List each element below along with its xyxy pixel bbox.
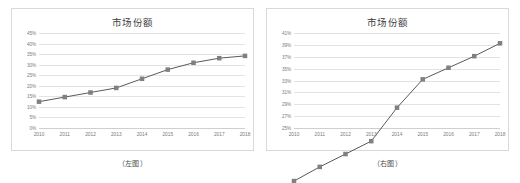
figure-right: 市场份额 41%39%37%35%33%31%29%27%25% 2010201… [265,8,510,168]
x-axis-tick-label: 2018 [495,132,506,137]
plot-area-left: 45%40%35%30%25%20%15%10%5%0% 20102011201… [39,33,245,128]
x-axis-tick-label: 2018 [240,132,251,137]
chart-title-right: 市场份额 [267,15,508,29]
x-axis-tick-label: 2011 [315,132,325,137]
data-point-marker [472,54,477,59]
data-point-marker [369,139,374,144]
y-axis-tick-label: 30% [27,62,36,67]
data-point-marker [420,77,425,82]
y-axis-tick-label: 0% [30,126,36,131]
chart-box-right: 市场份额 41%39%37%35%33%31%29%27%25% 2010201… [266,8,509,151]
y-axis-tick-label: 45% [27,31,36,36]
plot-area-right: 41%39%37%35%33%31%29%27%25% 201020112012… [294,33,500,128]
data-point-marker [446,65,451,70]
y-axis-tick-label: 15% [27,94,36,99]
x-axis-tick-label: 2013 [111,132,122,137]
x-axis-tick-label: 2010 [34,132,45,137]
data-point-marker [343,152,348,157]
data-point-marker [317,165,322,170]
y-axis-tick-label: 35% [282,66,291,71]
y-axis-tick-label: 10% [27,104,36,109]
data-point-marker [498,41,503,46]
y-axis-tick-label: 5% [30,115,36,120]
data-point-marker [88,90,93,95]
x-axis-tick-label: 2016 [188,132,199,137]
x-axis-tick-label: 2014 [137,132,148,137]
y-axis-tick-label: 33% [282,78,291,83]
figure-left: 市场份额 45%40%35%30%25%20%15%10%5%0% 201020… [10,8,255,168]
y-axis-tick-label: 25% [27,73,36,78]
data-point-marker [243,54,248,59]
y-axis-tick-label: 31% [282,90,291,95]
data-point-marker [395,105,400,110]
y-axis-tick-label: 20% [27,83,36,88]
data-point-marker [217,56,222,61]
x-axis-tick-label: 2017 [214,132,225,137]
x-axis-tick-label: 2012 [85,132,96,137]
y-axis-tick-label: 39% [282,42,291,47]
series-line-left [39,33,245,183]
y-axis-tick-label: 37% [282,54,291,59]
chart-comparison-page: 市场份额 45%40%35%30%25%20%15%10%5%0% 201020… [0,0,520,183]
x-axis-tick-label: 2015 [162,132,173,137]
x-axis-tick-label: 2010 [289,132,300,137]
y-axis-tick-label: 25% [282,126,291,131]
data-point-marker [37,99,42,104]
data-point-marker [292,179,297,183]
x-axis-tick-label: 2011 [60,132,70,137]
x-axis-tick-label: 2017 [469,132,480,137]
data-point-marker [62,95,67,100]
y-axis-tick-label: 40% [27,41,36,46]
data-point-marker [140,77,145,82]
chart-box-left: 市场份额 45%40%35%30%25%20%15%10%5%0% 201020… [11,8,254,151]
y-axis-tick-label: 27% [282,114,291,119]
x-axis-tick-label: 2012 [340,132,351,137]
x-axis-tick-label: 2015 [417,132,428,137]
x-axis-tick-label: 2013 [366,132,377,137]
y-axis-tick-label: 29% [282,102,291,107]
x-axis-tick-label: 2016 [443,132,454,137]
data-point-marker [165,67,170,72]
series-line-right [294,33,500,183]
data-line [294,43,500,181]
y-axis-tick-label: 35% [27,52,36,57]
x-axis-tick-label: 2014 [392,132,403,137]
chart-title-left: 市场份额 [12,15,253,29]
data-point-marker [114,86,119,91]
data-point-marker [191,60,196,65]
y-axis-tick-label: 41% [282,31,291,36]
